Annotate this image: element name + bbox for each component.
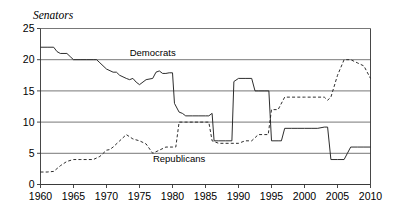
x-tick-label-1995: 1995 [260,190,284,202]
x-tick-label-2010: 2010 [359,190,383,202]
y-axis-title: Senators [33,9,74,21]
x-tick-label-1990: 1990 [227,190,251,202]
x-tick-label-2000: 2000 [293,190,317,202]
y-tick-label-0: 0 [29,178,35,190]
x-tick-label-1970: 1970 [95,190,119,202]
chart-figure: 0510152025 19601965197019751980198519901… [0,0,393,213]
senators-line-chart: 0510152025 19601965197019751980198519901… [0,0,393,213]
x-tick-label-1985: 1985 [194,190,218,202]
x-tick-label-1980: 1980 [161,190,185,202]
x-tick-label-1975: 1975 [128,190,152,202]
x-axis-tick-labels: 1960196519701975198019851990199520002005… [29,190,383,202]
x-tick-label-2005: 2005 [326,190,350,202]
x-tick-label-1965: 1965 [62,190,86,202]
y-tick-label-20: 20 [23,53,35,65]
x-tick-label-1960: 1960 [29,190,53,202]
y-tick-label-15: 15 [23,85,35,97]
y-tick-label-25: 25 [23,22,35,34]
y-tick-label-10: 10 [23,116,35,128]
annotation-republicans: Republicans [153,153,206,164]
y-tick-label-5: 5 [29,147,35,159]
annotation-democrats: Democrats [130,47,176,58]
chart-background [0,0,393,213]
